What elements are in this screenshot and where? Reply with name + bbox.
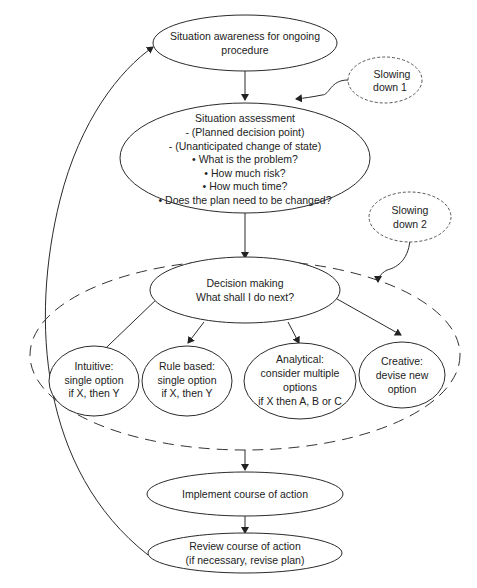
node-text: (if necessary, revise plan) — [186, 554, 305, 566]
node-text: • How much time? — [203, 180, 288, 192]
node-slowing-down-1: Slowing down 1 — [348, 57, 422, 103]
node-text: Implement course of action — [182, 488, 308, 500]
node-text: Slowing — [374, 68, 411, 80]
node-situation-assessment: Situation assessment - (Planned decision… — [120, 103, 370, 213]
node-text: option — [388, 383, 417, 395]
node-text: procedure — [221, 44, 268, 56]
node-text: - (Unanticipated change of state) — [169, 140, 321, 152]
node-analytical: Analytical: consider multiple options if… — [244, 343, 356, 419]
node-text: What shall I do next? — [196, 291, 294, 303]
node-slowing-down-2: Slowing down 2 — [369, 192, 451, 242]
node-text: if X then A, B or C — [258, 395, 342, 407]
node-text: if X, then Y — [161, 387, 212, 399]
node-intuitive: Intuitive: single option if X, then Y — [49, 346, 139, 416]
node-text: options — [283, 381, 317, 393]
node-text: down 1 — [373, 81, 407, 93]
feedback-loop-arrow — [45, 47, 153, 555]
node-text: down 2 — [393, 218, 427, 230]
node-text: • How much risk? — [204, 167, 285, 179]
node-creative: Creative: devise new option — [359, 342, 445, 408]
edge-decision-to-creative — [330, 295, 401, 335]
slowing-down-1-arrow — [296, 80, 348, 99]
node-text: Intuitive: — [74, 360, 113, 372]
node-text: Situation awareness for ongoing — [170, 30, 320, 42]
node-situation-awareness: Situation awareness for ongoing procedur… — [153, 15, 337, 71]
node-review: Review course of action (if necessary, r… — [148, 533, 342, 573]
node-text: consider multiple — [261, 367, 340, 379]
decision-flow-diagram: Situation awareness for ongoing procedur… — [0, 0, 477, 588]
node-text: Rule based: — [159, 360, 215, 372]
node-text: single option — [65, 374, 124, 386]
node-text: Slowing — [392, 204, 429, 216]
node-rule-based: Rule based: single option if X, then Y — [142, 346, 232, 416]
node-text: if X, then Y — [68, 387, 119, 399]
node-text: Review course of action — [189, 540, 301, 552]
node-text: • Does the plan need to be changed? — [159, 194, 332, 206]
node-decision-making: Decision making What shall I do next? — [150, 257, 340, 323]
node-title: Situation assessment — [195, 112, 295, 124]
edge-decision-to-rule-based — [188, 322, 204, 343]
node-text: • What is the problem? — [192, 153, 298, 165]
node-text: devise new — [376, 369, 429, 381]
edge-decision-to-analytical — [288, 322, 299, 343]
node-text: Decision making — [206, 277, 283, 289]
slowing-down-2-arrow — [378, 240, 410, 282]
node-text: - (Planned decision point) — [185, 126, 304, 138]
node-text: single option — [158, 374, 217, 386]
node-text: Creative: — [381, 355, 423, 367]
node-text: Analytical: — [276, 353, 324, 365]
node-implement: Implement course of action — [147, 472, 343, 516]
